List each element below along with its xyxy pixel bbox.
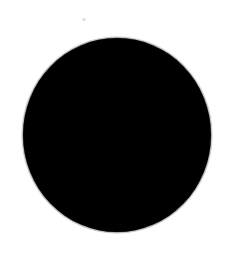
image-canvas: Solid black circle on white background	[0, 0, 227, 253]
black-disc	[23, 38, 211, 232]
dust-speck-artifact-icon	[82, 18, 86, 21]
